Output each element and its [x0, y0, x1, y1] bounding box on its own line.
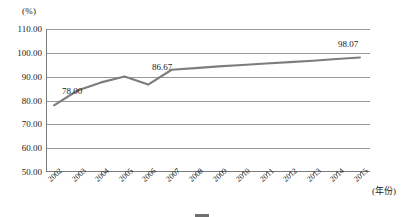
chart-caption [0, 210, 406, 217]
y-tick-label: 100.00 [2, 48, 42, 58]
y-tick-label: 50.00 [2, 167, 42, 177]
data-point-label: 98.07 [338, 39, 358, 49]
y-tick-label: 90.00 [2, 72, 42, 82]
x-tick-mark [242, 172, 243, 176]
y-tick-label: 70.00 [2, 119, 42, 129]
x-tick-mark [78, 172, 79, 176]
x-tick-mark [125, 172, 126, 176]
x-tick-mark [172, 172, 173, 176]
x-axis-title: (年份) [372, 184, 396, 197]
x-tick-mark [148, 172, 149, 176]
x-tick-mark [101, 172, 102, 176]
series-line-1 [54, 57, 360, 105]
x-tick-mark [313, 172, 314, 176]
x-tick-mark [54, 172, 55, 176]
series-line-group [46, 29, 370, 172]
y-tick-label: 60.00 [2, 143, 42, 153]
y-axis-unit-label: (%) [22, 6, 36, 16]
x-tick-mark [219, 172, 220, 176]
x-tick-mark [266, 172, 267, 176]
legend-swatch-icon [195, 214, 209, 217]
data-point-label: 86.67 [152, 62, 172, 72]
x-tick-mark [289, 172, 290, 176]
y-tick-label: 80.00 [2, 96, 42, 106]
x-tick-mark [195, 172, 196, 176]
x-tick-mark [360, 172, 361, 176]
x-tick-mark [336, 172, 337, 176]
data-point-label: 78.00 [62, 86, 82, 96]
line-chart: (%) 110.00100.0090.0080.0070.0060.0050.0… [0, 0, 406, 217]
y-tick-label: 110.00 [2, 24, 42, 34]
